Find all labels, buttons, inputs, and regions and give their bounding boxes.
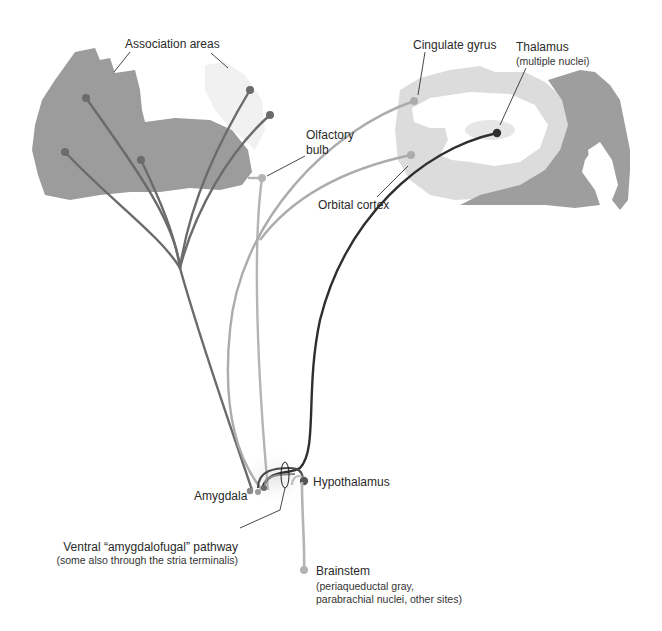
olfactory-bulb-node	[258, 174, 266, 182]
label-amygdala: Amygdala	[194, 489, 247, 503]
label-brainstem-sub-1: (periaqueductal gray,	[316, 580, 414, 593]
label-cingulate-gyrus: Cingulate gyrus	[413, 38, 496, 52]
amygdala-pathway-diagram	[0, 0, 662, 631]
thalamus-region	[465, 120, 515, 140]
cingulate-node	[410, 97, 418, 105]
label-olfactory-bulb-1: Olfactory	[306, 128, 354, 142]
label-orbital-cortex: Orbital cortex	[318, 198, 389, 212]
thalamus-node	[493, 129, 501, 137]
label-hypothalamus: Hypothalamus	[313, 475, 390, 489]
label-association-areas: Association areas	[125, 37, 220, 51]
label-thalamus-sub: (multiple nuclei)	[516, 55, 590, 68]
label-thalamus: Thalamus	[516, 40, 569, 54]
amygdala-node-3	[261, 485, 267, 491]
label-olfactory-bulb-2: bulb	[306, 143, 329, 157]
amygdala-node-2	[255, 489, 261, 495]
label-brainstem-sub-2: parabrachial nuclei, other sites)	[316, 593, 462, 606]
orbital-node	[407, 151, 415, 159]
label-brainstem: Brainstem	[316, 564, 370, 578]
label-ventral-pathway-sub: (some also through the stria terminalis)	[57, 554, 239, 567]
amygdala-node	[247, 488, 253, 494]
brainstem-node	[300, 566, 308, 574]
label-ventral-pathway: Ventral “amygdalofugal” pathway	[63, 540, 238, 554]
